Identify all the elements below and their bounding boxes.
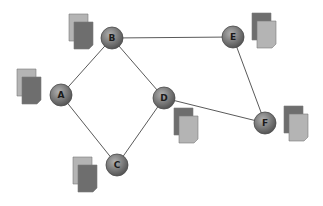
document-front-icon: [179, 116, 198, 143]
document-stack-icon-e: [252, 13, 276, 48]
edge-e-f: [233, 37, 265, 123]
edge-b-d: [112, 38, 164, 98]
node-label: B: [109, 33, 116, 43]
document-stack-icon-d: [174, 108, 198, 143]
node-label: A: [58, 90, 65, 100]
document-stack-icon-a: [17, 69, 41, 104]
document-front-icon: [257, 21, 276, 48]
document-front-icon: [22, 77, 41, 104]
document-front-icon: [74, 22, 93, 49]
node-f[interactable]: F: [254, 112, 276, 134]
node-label: E: [230, 32, 236, 42]
node-e[interactable]: E: [222, 26, 244, 48]
edge-a-c: [61, 95, 117, 165]
document-stack-icon-c: [73, 157, 97, 192]
node-a[interactable]: A: [50, 84, 72, 106]
edge-b-e: [112, 37, 233, 38]
node-label: F: [262, 118, 268, 128]
node-d[interactable]: D: [153, 87, 175, 109]
node-b[interactable]: B: [101, 27, 123, 49]
node-label: D: [160, 93, 167, 103]
document-front-icon: [78, 165, 97, 192]
network-diagram: ABCDEF: [0, 0, 323, 206]
edge-c-d: [117, 98, 164, 165]
document-stack-icon-f: [284, 106, 308, 141]
node-c[interactable]: C: [106, 154, 128, 176]
node-label: C: [114, 160, 121, 170]
document-stack-icon-b: [69, 14, 93, 49]
document-front-icon: [289, 114, 308, 141]
